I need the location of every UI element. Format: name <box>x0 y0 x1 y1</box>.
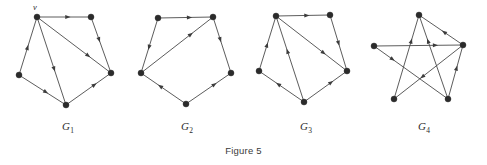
edge-bottom-to-right <box>66 73 111 105</box>
edge-left-to-top-right <box>141 17 213 73</box>
edge-line <box>374 45 463 46</box>
vertex-top-right <box>88 14 94 20</box>
arrowhead <box>25 45 29 51</box>
edge-line <box>19 75 66 105</box>
arrowhead <box>427 39 431 45</box>
edge-top-left-to-left <box>141 18 158 73</box>
edge-bottom-right-to-top <box>419 15 448 99</box>
edge-line <box>394 15 419 99</box>
arrowhead <box>454 66 458 72</box>
edge-top-right-to-right <box>91 17 111 73</box>
graph-g3 <box>256 12 350 105</box>
graph-label-subscript: 4 <box>426 126 430 135</box>
edge-top-left-to-top-right <box>276 13 330 17</box>
vertex-left <box>256 68 262 74</box>
edge-right-to-bottom-left <box>394 45 463 99</box>
vertex-bottom-left <box>391 96 397 102</box>
edge-top-left-to-top-right <box>158 15 213 19</box>
graph-label-subscript: 3 <box>308 126 312 135</box>
edge-line <box>276 16 347 71</box>
graph-label-subscript: 1 <box>70 126 74 135</box>
arrowhead <box>276 83 281 88</box>
edge-line <box>213 17 231 73</box>
edge-top-left-to-bottom <box>37 17 66 105</box>
vertex-left <box>138 70 144 76</box>
graph-label-subscript: 2 <box>189 126 193 135</box>
edge-top-right-to-right <box>213 17 231 73</box>
edge-top-left-to-right <box>37 17 111 73</box>
graph-label-text: G <box>181 120 189 132</box>
vertex-bottom <box>183 101 189 107</box>
graph-label-text: G <box>418 120 426 132</box>
edge-line <box>374 46 448 99</box>
edge-line <box>37 17 111 73</box>
vertex-left <box>371 43 377 49</box>
edge-bottom-left-to-top <box>394 15 419 99</box>
arrowhead <box>304 13 309 17</box>
vertex-left <box>16 72 22 78</box>
arrowhead <box>187 15 192 19</box>
graph-g2 <box>138 14 234 107</box>
edge-line <box>448 45 463 99</box>
arrowhead <box>442 31 447 36</box>
vertex-bottom <box>63 102 69 108</box>
vertex-top-right <box>327 12 333 18</box>
graph-label-text: G <box>300 120 308 132</box>
edge-left-to-bottom <box>19 75 66 105</box>
arrowhead <box>328 81 333 86</box>
arrowhead <box>336 40 340 46</box>
edge-line <box>419 15 448 99</box>
graph-g4 <box>371 12 466 102</box>
arrowhead <box>286 49 290 55</box>
edge-top-right-to-right <box>330 15 347 71</box>
vertex-label-v: v <box>33 2 37 12</box>
edge-line <box>394 45 463 99</box>
vertex-top-left <box>34 14 40 20</box>
arrowhead <box>91 83 96 88</box>
arrowhead <box>264 42 268 48</box>
arrowhead <box>51 66 55 72</box>
edge-right-to-top <box>419 15 463 45</box>
edge-line <box>276 15 330 16</box>
graph-label-text: G <box>62 120 70 132</box>
graph-label-g4: G4 <box>418 120 430 135</box>
edge-bottom-to-top-left <box>276 16 304 102</box>
edge-line <box>304 71 347 102</box>
edge-bottom-right-to-right <box>448 45 463 99</box>
figure-container: G1vG2G3G4 Figure 5 <box>0 0 487 165</box>
vertex-top-left <box>273 13 279 19</box>
vertex-top-left <box>155 15 161 21</box>
edge-line <box>276 16 304 102</box>
edge-bottom-to-left <box>141 73 186 104</box>
vertex-top-right <box>210 14 216 20</box>
arrowhead <box>218 37 222 43</box>
edge-line <box>91 17 111 73</box>
vertex-right <box>460 42 466 48</box>
arrowhead <box>148 44 152 50</box>
edge-line <box>66 73 111 105</box>
arrowhead <box>96 37 100 43</box>
arrowhead <box>158 85 163 90</box>
arrowhead <box>433 43 438 47</box>
vertex-top <box>416 12 422 18</box>
directed-graphs-diagram <box>0 0 487 140</box>
edge-line <box>141 17 213 73</box>
graph-g1 <box>16 14 114 108</box>
arrowhead <box>409 39 413 45</box>
edge-line <box>141 73 186 104</box>
edge-bottom-to-right <box>304 71 347 102</box>
edge-top-left-to-right <box>276 16 347 71</box>
vertex-bottom-right <box>445 96 451 102</box>
graph-label-g2: G2 <box>181 120 193 135</box>
edge-line <box>158 17 213 18</box>
edge-line <box>419 15 463 45</box>
arrowhead <box>211 83 216 88</box>
edge-left-to-right <box>374 43 463 47</box>
vertex-right <box>228 70 234 76</box>
graph-label-g3: G3 <box>300 120 312 135</box>
edge-bottom-to-left <box>259 71 304 102</box>
arrowhead <box>43 89 48 93</box>
edge-line <box>37 17 66 105</box>
edge-left-to-top-left <box>19 17 37 75</box>
edge-bottom-to-right <box>186 73 231 104</box>
